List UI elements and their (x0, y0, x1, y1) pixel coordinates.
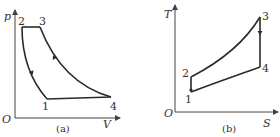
pv-x-label: V (103, 118, 112, 131)
ts-point-1-label: 1 (185, 93, 192, 106)
pv-process-4-1 (47, 97, 111, 99)
ts-caption: (b) (222, 123, 236, 134)
pv-diagram: p 2 3 1 4 O V (a) (2, 10, 120, 134)
pv-process-1-2 (22, 27, 47, 99)
pv-caption: (a) (56, 123, 70, 134)
ts-point-1-dot (189, 88, 192, 91)
ts-process-2-3 (191, 17, 260, 77)
pv-point-2-label: 2 (18, 15, 25, 28)
pv-process-3-4 (40, 27, 111, 97)
ts-origin-label: O (164, 107, 173, 120)
ts-point-2-label: 2 (182, 67, 189, 80)
pv-y-label: p (4, 10, 11, 23)
ts-arrow-3-4-icon (258, 31, 263, 35)
pv-point-1-label: 1 (42, 100, 49, 113)
pv-origin-label: O (2, 113, 11, 126)
ts-point-4-label: 4 (262, 62, 269, 75)
pv-point-3-label: 3 (39, 15, 46, 28)
ts-x-label: S (263, 117, 271, 130)
ts-y-label: T (164, 8, 173, 21)
pv-point-4-label: 4 (110, 100, 117, 113)
ts-diagram: T 3 4 2 1 O S (b) (164, 5, 278, 134)
diagram-canvas: p 2 3 1 4 O V (a) T 3 4 2 1 O S (b) (0, 0, 280, 137)
ts-point-3-label: 3 (262, 10, 269, 23)
